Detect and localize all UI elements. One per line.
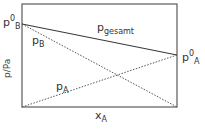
x-axis-label: xA: [95, 110, 107, 124]
p-a-line: [22, 55, 177, 107]
p-b-label: pB: [32, 35, 44, 49]
p-gesamt-label: pgesamt: [97, 22, 134, 36]
y-axis-label: p/Pa: [2, 59, 12, 78]
p0-b-label: p0B: [3, 15, 21, 31]
p-a-label: pA: [56, 81, 68, 95]
p0-a-label: p0A: [182, 50, 200, 66]
plot-frame: [22, 4, 177, 107]
p-b-line: [22, 24, 177, 107]
